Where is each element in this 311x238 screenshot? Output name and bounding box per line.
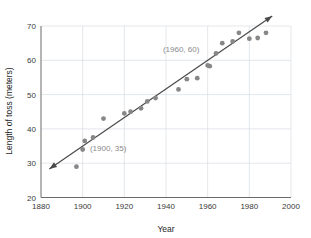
y-tick-label-40: 40 [27, 125, 36, 134]
scatter-plot-figure: 203040506070 188019001920194019601980200… [0, 0, 311, 238]
data-point [153, 96, 158, 101]
data-point [74, 164, 79, 169]
chart-canvas: 203040506070 188019001920194019601980200… [0, 0, 311, 238]
annotations: (1900, 35)(1960, 60) [90, 45, 200, 153]
x-tick-label-1940: 1940 [157, 202, 175, 211]
data-point [230, 39, 235, 44]
y-tick-label-60: 60 [27, 56, 36, 65]
data-point [247, 36, 252, 41]
x-tick-label-1900: 1900 [74, 202, 92, 211]
x-tick-label-1960: 1960 [199, 202, 217, 211]
y-tick-label-30: 30 [27, 159, 36, 168]
data-point [80, 147, 85, 152]
data-point [139, 106, 144, 111]
data-point [145, 99, 150, 104]
y-axis-title: Length of toss (meters) [4, 67, 14, 155]
data-point [195, 76, 200, 81]
trend-line-arrow-upper [264, 16, 272, 23]
data-point [264, 30, 269, 35]
data-point [82, 139, 87, 144]
x-axis-title: Year [157, 224, 174, 234]
data-point [214, 51, 219, 56]
data-point [255, 36, 260, 41]
data-point [176, 87, 181, 92]
data-point [101, 116, 106, 121]
x-tick-label-2000: 2000 [282, 202, 300, 211]
x-tick-label-1980: 1980 [240, 202, 258, 211]
data-point [128, 109, 133, 114]
y-tick-label-70: 70 [27, 22, 36, 31]
data-point [184, 77, 189, 82]
data-point [220, 41, 225, 46]
data-point [122, 111, 127, 116]
data-point [237, 30, 242, 35]
annotation-label-1: (1960, 60) [163, 45, 200, 54]
y-tick-label-50: 50 [27, 91, 36, 100]
x-tick-labels: 1880190019201940196019802000 [32, 202, 300, 211]
data-point [207, 64, 212, 69]
x-tick-label-1920: 1920 [115, 202, 133, 211]
x-tick-label-1880: 1880 [32, 202, 50, 211]
annotation-label-0: (1900, 35) [90, 144, 127, 153]
y-tick-labels: 203040506070 [27, 22, 36, 203]
data-point [91, 135, 96, 140]
